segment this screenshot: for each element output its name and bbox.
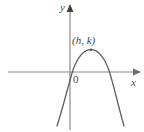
origin-label: 0 [73, 74, 79, 85]
graph-canvas [0, 0, 144, 132]
y-axis-arrow-icon [67, 4, 74, 12]
x-axis-label: x [131, 77, 136, 88]
vertex-point-marker [90, 49, 93, 52]
parabola-figure: y x 0 (h, k) [0, 0, 144, 132]
x-axis-arrow-icon [133, 68, 141, 75]
vertex-coordinate-label: (h, k) [72, 35, 95, 46]
y-axis-label: y [60, 2, 65, 13]
parabola-curve [57, 50, 124, 127]
